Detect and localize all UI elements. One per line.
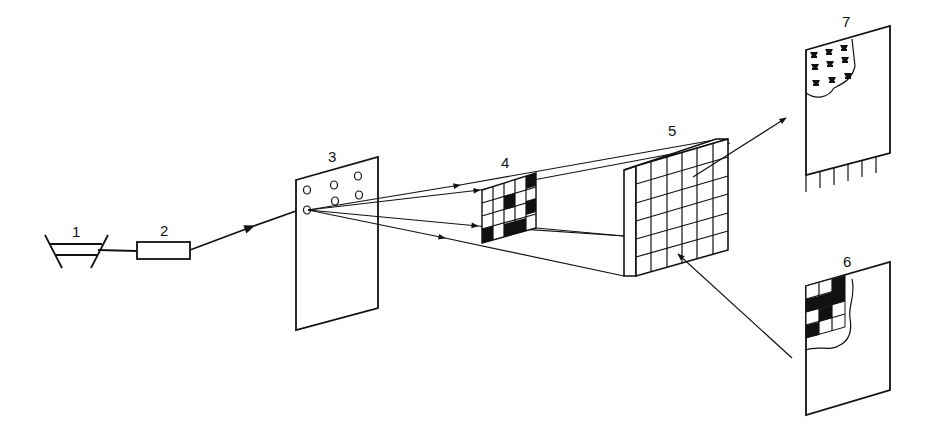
sheet-6: 6 [806, 253, 890, 415]
label-1: 1 [72, 223, 80, 240]
label-5: 5 [668, 122, 676, 139]
grid-screen-5: 5 [624, 122, 728, 276]
label-6: 6 [843, 253, 851, 270]
label-7: 7 [842, 13, 850, 30]
comb-teeth [806, 156, 876, 192]
checker-mask-4: 4 [482, 154, 536, 243]
perspective-line [536, 228, 624, 236]
label-2: 2 [160, 222, 168, 239]
sheet-7: 7 [806, 13, 890, 192]
diagram-canvas: 1 2 3 4 [0, 0, 937, 436]
label-3: 3 [328, 148, 336, 165]
panel-3: 3 [296, 148, 378, 330]
source-element-1: 1 [45, 223, 137, 268]
label-4: 4 [501, 154, 509, 171]
bell-pattern [810, 45, 852, 86]
arrow-from-6 [678, 254, 792, 358]
checker-pattern [806, 275, 845, 338]
component-box-2: 2 [137, 211, 296, 259]
